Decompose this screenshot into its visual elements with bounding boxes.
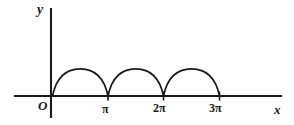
y-axis-label: y bbox=[37, 3, 43, 17]
arch-curve-2 bbox=[108, 69, 164, 96]
x-tick-label-2pi: 2π bbox=[153, 102, 166, 114]
x-axis-label: x bbox=[274, 103, 281, 116]
arch-curve-3 bbox=[164, 69, 220, 96]
origin-label: O bbox=[38, 99, 47, 112]
arch-curve-1 bbox=[53, 69, 109, 96]
x-tick-label-3pi: 3π bbox=[209, 102, 222, 114]
graph-figure: y x O π 2π 3π bbox=[0, 0, 294, 125]
x-tick-label-pi: π bbox=[102, 103, 109, 115]
